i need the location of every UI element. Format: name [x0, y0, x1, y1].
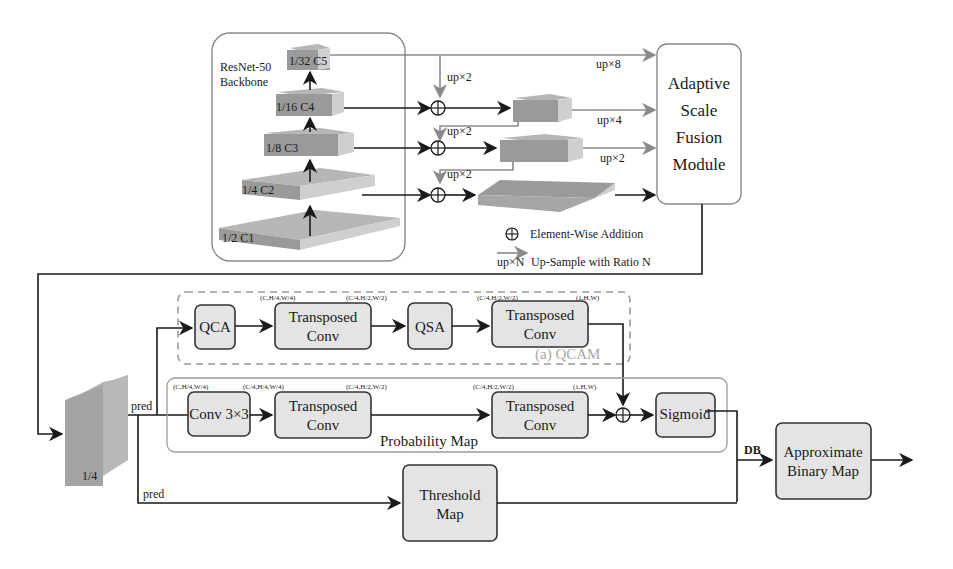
pred-label-top: pred [131, 399, 152, 413]
asf-module: Adaptive Scale Fusion Module [657, 44, 741, 204]
sigmoid-label: Sigmoid [660, 406, 711, 422]
p4-feature [513, 94, 572, 122]
tconv-label: Conv [524, 417, 557, 433]
asf-box [657, 44, 741, 204]
probability-title: Probability Map [380, 433, 478, 449]
to-qca-line [157, 328, 192, 415]
dim-label: (1,H,W) [576, 294, 600, 302]
dim-label: (C/4,H/4,W/4) [243, 383, 284, 391]
qca-label: QCA [199, 319, 231, 335]
stage-label: 1/16 C4 [276, 100, 314, 114]
tconv-label: Transposed [289, 309, 358, 325]
stage-c4: 1/16 C4 [276, 88, 344, 116]
stage-label: 1/4 C2 [242, 183, 274, 197]
legend: Element-Wise Addition up×N Up-Sample wit… [497, 227, 651, 269]
asf-line: Adaptive [668, 74, 730, 93]
legend-upsample-label: Up-Sample with Ratio N [531, 255, 651, 269]
conv3x3-label: Conv 3×3 [189, 406, 249, 422]
legend-addition-label: Element-Wise Addition [530, 227, 643, 241]
db-label: DB [744, 443, 761, 457]
asf-line: Module [673, 155, 726, 174]
dim-label: (C/4,H/2,W/2) [346, 383, 387, 391]
up4-label: up×4 [597, 113, 622, 127]
stage-c3: 1/8 C3 [264, 128, 354, 156]
threshold-map: Threshold Map [403, 465, 497, 541]
p3-feature [500, 134, 583, 162]
dim-label: (C/4,H/2,W/2) [473, 383, 514, 391]
output-box [776, 423, 871, 499]
up2-label: up×2 [600, 151, 625, 165]
add-icon [431, 101, 445, 115]
backbone-title-1: ResNet-50 [220, 60, 271, 74]
stage-label: 1/2 C1 [222, 231, 254, 245]
upsample-label: up×2 [447, 70, 472, 84]
tconv-label: Transposed [506, 398, 575, 414]
p2-feature [478, 180, 615, 212]
stage-label: 1/32 C5 [289, 54, 327, 68]
add-icon [431, 141, 445, 155]
probability-map-module: Probability Map (C,H/4,W/4) Conv 3×3 (C/… [167, 378, 727, 452]
upsample-label: up×2 [447, 167, 472, 181]
threshold-box [403, 465, 497, 541]
up8-label: up×8 [596, 57, 621, 71]
add-icon [616, 408, 630, 422]
stage-c5: 1/32 C5 [287, 44, 330, 70]
legend-upsample-glyph: up×N [497, 255, 525, 269]
dim-label: (C,H/4,W/4) [260, 294, 296, 302]
tconv-label: Conv [307, 328, 340, 344]
approximate-binary-map: Approximate Binary Map [776, 423, 871, 499]
output-label: Binary Map [787, 463, 859, 479]
add-icon [431, 188, 445, 202]
feature-map-1-4: 1/4 [65, 375, 128, 486]
backbone-group: ResNet-50 Backbone 1/32 C5 1/16 C4 1/8 C… [212, 33, 405, 261]
output-label: Approximate [783, 444, 862, 460]
tconv-label: Transposed [289, 398, 358, 414]
add-legend-icon [506, 228, 518, 240]
architecture-diagram: ResNet-50 Backbone 1/32 C5 1/16 C4 1/8 C… [0, 0, 953, 569]
threshold-label: Threshold [420, 487, 481, 503]
asf-line: Scale [681, 101, 718, 120]
dim-label: (1,H,W) [573, 383, 597, 391]
stage-c2: 1/4 C2 [242, 168, 375, 200]
tconv-label: Transposed [506, 307, 575, 323]
asf-line: Fusion [676, 128, 723, 147]
tconv-label: Conv [307, 417, 340, 433]
backbone-title-2: Backbone [220, 75, 268, 89]
fpn-group: up×8 up×2 up×4 up×2 [330, 55, 655, 212]
feature-label: 1/4 [82, 469, 97, 483]
qcam-title: (a) QCAM [535, 346, 600, 363]
pred-label-bottom: pred [143, 487, 164, 501]
tconv-label: Conv [524, 326, 557, 342]
qsa-label: QSA [415, 319, 445, 335]
dim-label: (C/4,H/2,W/2) [346, 294, 387, 302]
upsample-label: up×2 [447, 124, 472, 138]
dim-label: (C,H/4,W/4) [173, 383, 209, 391]
stage-label: 1/8 C3 [266, 141, 298, 155]
threshold-label: Map [436, 506, 464, 522]
